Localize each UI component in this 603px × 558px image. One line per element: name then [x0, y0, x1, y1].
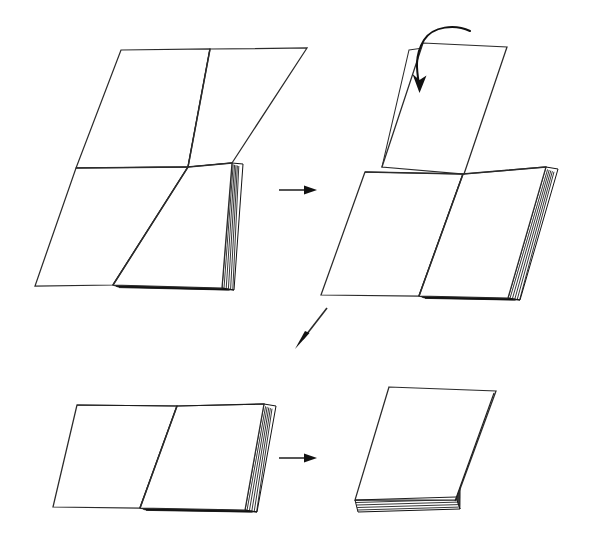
panel-1-upper-left-panel [76, 49, 210, 168]
panel-4-closed-booklet [355, 387, 496, 512]
folding-diagram-svg [0, 0, 603, 558]
panel-1-open-folio-stack [35, 48, 307, 290]
panel-3-open-booklet [53, 404, 276, 512]
panel-2-raised-flap [382, 43, 507, 174]
panel-2-folio-stack-raised-flap [321, 27, 558, 300]
panel-4-cover [355, 387, 496, 500]
arrow-2-diagonal [295, 308, 327, 349]
arrow-1-right [279, 186, 317, 195]
arrow-3-right [279, 454, 317, 463]
folding-instruction-figure [0, 0, 603, 558]
